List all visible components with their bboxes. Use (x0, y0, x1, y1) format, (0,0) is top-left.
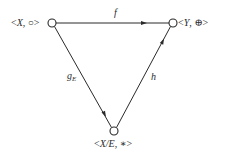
edge-label-f: f (114, 8, 117, 18)
label-rest: , ⊕> (189, 17, 208, 28)
label-rest: , ○> (23, 17, 40, 28)
edge-h (117, 27, 171, 128)
arrowhead-icon (160, 39, 164, 45)
node-x-mod-e-icon[interactable] (110, 127, 118, 135)
edge-f (56, 21, 169, 25)
arrowhead-icon (141, 21, 147, 25)
node-label-y-oplus: <Y, ⊕> (178, 18, 208, 28)
edge-label-g-e: gE (67, 71, 76, 83)
node-y-oplus-icon[interactable] (169, 19, 177, 27)
edge-label-subscript: E (72, 75, 76, 83)
label-var: X/E (100, 138, 115, 149)
node-x-circle-icon[interactable] (48, 19, 56, 27)
label-rest: , ∗> (115, 138, 132, 149)
node-label-x-mod-e: <X/E, ∗> (94, 139, 132, 149)
edge-g-e (55, 27, 112, 128)
edge-label-h: h (151, 72, 156, 82)
node-label-x-circle: <X, ○> (11, 18, 39, 28)
